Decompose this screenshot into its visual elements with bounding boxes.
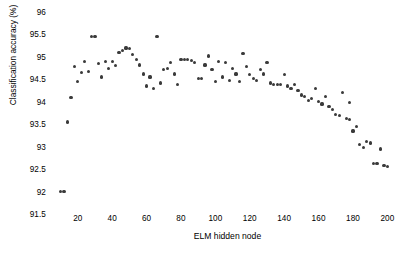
data-point — [314, 87, 317, 90]
data-point — [272, 83, 275, 86]
data-point — [193, 61, 196, 64]
data-point — [83, 60, 86, 63]
y-tick-label: 92.5 — [30, 165, 46, 174]
data-point — [76, 80, 79, 83]
data-point — [128, 47, 131, 50]
data-point — [162, 68, 165, 71]
data-point — [207, 54, 210, 57]
data-point — [365, 140, 368, 143]
data-point — [97, 62, 100, 65]
data-point — [320, 102, 323, 105]
y-tick-label: 94.5 — [30, 75, 46, 84]
data-point — [200, 77, 203, 80]
data-point — [224, 61, 227, 64]
data-point — [176, 83, 179, 86]
x-tick-label: 100 — [208, 214, 222, 223]
data-point — [148, 75, 151, 78]
data-point — [169, 61, 172, 64]
data-point — [296, 89, 299, 92]
x-tick-label: 60 — [142, 214, 151, 223]
data-point — [138, 63, 141, 66]
plot-area — [52, 12, 396, 214]
data-point — [293, 83, 296, 86]
data-point — [331, 108, 334, 111]
data-point — [87, 70, 90, 73]
data-point — [289, 87, 292, 90]
data-point — [310, 97, 313, 100]
data-point — [159, 81, 162, 84]
data-point — [379, 147, 382, 150]
data-point — [265, 61, 268, 64]
data-point — [62, 190, 65, 193]
y-tick-label: 96 — [37, 8, 46, 17]
x-tick-label: 40 — [108, 214, 117, 223]
data-point — [104, 60, 107, 63]
data-point — [259, 68, 262, 71]
data-point — [142, 72, 145, 75]
data-point — [135, 58, 138, 61]
data-point — [73, 65, 76, 68]
data-point — [66, 120, 69, 123]
y-tick-label: 93.5 — [30, 120, 46, 129]
data-point — [131, 53, 134, 56]
data-point — [245, 65, 248, 68]
x-tick-label: 160 — [312, 214, 326, 223]
data-point — [324, 95, 327, 98]
x-axis: 20406080100120140160180200 — [0, 214, 409, 228]
x-tick-label: 200 — [380, 214, 394, 223]
data-point — [100, 75, 103, 78]
data-point — [341, 91, 344, 94]
data-point — [234, 72, 237, 75]
data-point — [334, 113, 337, 116]
x-tick-label: 80 — [176, 214, 185, 223]
data-point — [145, 84, 148, 87]
data-point — [358, 143, 361, 146]
data-point — [203, 63, 206, 66]
x-tick-label: 180 — [346, 214, 360, 223]
x-tick-label: 120 — [243, 214, 257, 223]
data-point — [114, 64, 117, 67]
data-point — [117, 51, 120, 54]
x-tick-label: 140 — [277, 214, 291, 223]
y-tick-label: 94 — [37, 97, 46, 106]
data-point — [303, 95, 306, 98]
data-point — [69, 96, 72, 99]
data-point — [231, 67, 234, 70]
x-tick-label: 20 — [73, 214, 82, 223]
data-point — [375, 162, 378, 165]
data-point — [107, 67, 110, 70]
data-point — [362, 146, 365, 149]
data-point — [238, 80, 241, 83]
y-axis-title: Classification accuracy (%) — [8, 0, 18, 130]
data-point — [327, 105, 330, 108]
data-point — [228, 79, 231, 82]
data-point — [338, 114, 341, 117]
data-point — [155, 35, 158, 38]
data-point — [111, 60, 114, 63]
data-point — [241, 52, 244, 55]
data-point — [152, 87, 155, 90]
data-point — [186, 58, 189, 61]
y-tick-label: 95.5 — [30, 30, 46, 39]
data-point — [93, 35, 96, 38]
data-point — [248, 73, 251, 76]
data-point — [386, 165, 389, 168]
data-point — [255, 79, 258, 82]
y-tick-label: 95 — [37, 52, 46, 61]
data-point — [348, 118, 351, 121]
x-axis-title: ELM hidden node — [0, 231, 409, 241]
data-point — [173, 72, 176, 75]
data-point — [279, 83, 282, 86]
data-point — [351, 129, 354, 132]
scatter-plot-figure: 91.59292.59393.59494.59595.596 Classific… — [0, 0, 409, 254]
data-point — [307, 99, 310, 102]
data-point — [214, 80, 217, 83]
data-point — [283, 73, 286, 76]
data-point — [348, 101, 351, 104]
data-point — [166, 67, 169, 70]
y-tick-label: 92 — [37, 187, 46, 196]
data-point — [262, 72, 265, 75]
data-point — [217, 60, 220, 63]
data-point — [210, 68, 213, 71]
y-tick-label: 93 — [37, 142, 46, 151]
